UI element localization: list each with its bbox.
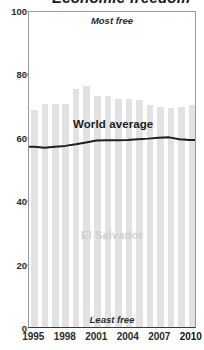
chart-title-clipped: Economic freedom [0, 0, 204, 9]
x-axis-tick-label: 2001 [85, 331, 107, 342]
most-free-label: Most free [91, 15, 133, 26]
x-axis-tick-label: 2004 [117, 331, 139, 342]
chart-title-text: Economic freedom [52, 0, 190, 6]
y-axis-tick-mark [23, 264, 28, 265]
economic-freedom-chart: Economic freedom Most free Least free El… [0, 0, 204, 350]
x-axis-tick-label: 2010 [180, 331, 202, 342]
x-axis-tick-label: 2007 [148, 331, 170, 342]
y-axis-tick-mark [23, 137, 28, 138]
y-axis-tick-mark [23, 74, 28, 75]
y-axis-tick-mark [23, 10, 28, 11]
country-watermark-label: El Salvador [81, 229, 143, 241]
x-axis-tick-label: 1995 [22, 331, 44, 342]
x-axis-tick-label: 1998 [54, 331, 76, 342]
y-axis-tick-mark [23, 201, 28, 202]
world-average-label: World average [73, 118, 153, 130]
y-axis-tick-mark [23, 327, 28, 328]
line-series-world-average [29, 12, 195, 327]
plot-area: Most free Least free El Salvador World a… [28, 11, 196, 328]
least-free-label: Least free [90, 314, 135, 325]
